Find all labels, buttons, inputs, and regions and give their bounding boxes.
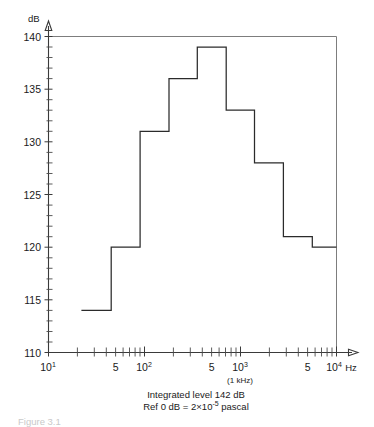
caption-ref-suffix: pascal — [219, 401, 249, 412]
y-tick-label-115: 115 — [24, 294, 41, 306]
x-tick-label-10e2: 102 — [136, 361, 152, 373]
x-tick-label-10e4: 104 — [326, 361, 342, 373]
y-tick-label-135: 135 — [23, 83, 41, 95]
x-axis: 101 102 103 104 5 5 5 Hz (1 kHz) — [40, 347, 358, 386]
x-axis-unit-label: Hz — [345, 362, 357, 373]
one-khz-note: (1 kHz) — [227, 376, 253, 385]
svg-text:102: 102 — [136, 361, 152, 373]
caption-ref-prefix: Ref 0 dB = 2×10 — [143, 401, 212, 412]
svg-text:104: 104 — [326, 361, 342, 373]
x-tick-label-5000: 5 — [305, 361, 311, 373]
y-tick-label-140: 140 — [23, 31, 41, 43]
x-tick-label-50: 5 — [113, 361, 119, 373]
y-tick-label-120: 120 — [23, 241, 41, 253]
figure-container: 140 135 130 125 120 115 110 dB — [0, 0, 374, 427]
y-tick-label-130: 130 — [23, 136, 41, 148]
plot-frame — [49, 37, 337, 353]
svg-text:101: 101 — [40, 361, 56, 373]
svg-text:103: 103 — [232, 361, 248, 373]
spectrum-chart: 140 135 130 125 120 115 110 dB — [0, 0, 374, 427]
y-axis-unit-label: dB — [28, 13, 40, 24]
y-axis: 140 135 130 125 120 115 110 dB — [23, 13, 52, 359]
spectrum-step-trace — [80, 47, 336, 310]
y-tick-label-110: 110 — [24, 347, 41, 359]
caption-integrated-level: Integrated level 142 dB — [147, 389, 245, 400]
x-tick-label-10e3: 103 — [232, 361, 248, 373]
x-tick-label-10e1: 101 — [40, 361, 56, 373]
caption-reference-level: Ref 0 dB = 2×10-5 pascal — [143, 400, 249, 412]
figure-number-caption: Figure 3.1 — [18, 416, 61, 427]
y-tick-label-125: 125 — [23, 189, 41, 201]
caption-block: Integrated level 142 dB Ref 0 dB = 2×10-… — [143, 389, 249, 412]
x-tick-label-500: 5 — [209, 361, 215, 373]
